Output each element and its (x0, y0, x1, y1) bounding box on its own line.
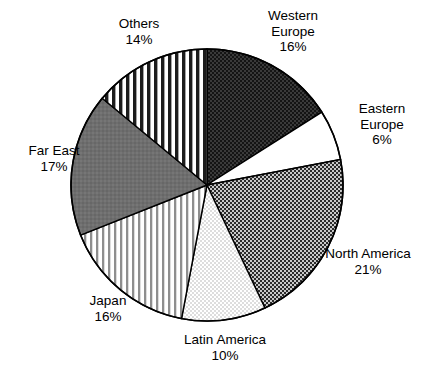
pie-label-japan-line1: Japan (90, 293, 127, 309)
pie-label-north-america: North America 21% (325, 246, 411, 277)
pie-value-japan: 16% (90, 309, 127, 325)
pie-label-latin-america-line1: Latin America (184, 332, 266, 348)
pie-value-western-europe: 16% (268, 39, 318, 55)
pie-label-western-europe-line1: Western (268, 8, 318, 24)
pie-label-eastern-europe: Eastern Europe 6% (359, 101, 406, 148)
pie-label-eastern-europe-line1: Eastern (359, 101, 406, 117)
pie-label-latin-america: Latin America 10% (184, 332, 266, 363)
pie-label-far-east-line1: Far East (28, 143, 79, 159)
pie-value-north-america: 21% (325, 262, 411, 278)
pie-value-latin-america: 10% (184, 348, 266, 364)
pie-label-western-europe-line2: Europe (268, 24, 318, 40)
pie-label-western-europe: Western Europe 16% (268, 8, 318, 55)
pie-value-far-east: 17% (28, 159, 79, 175)
pie-slice-group (71, 49, 343, 321)
pie-chart (0, 0, 431, 377)
pie-label-north-america-line1: North America (325, 246, 411, 262)
pie-label-others-line1: Others (119, 16, 160, 32)
pie-label-far-east: Far East 17% (28, 143, 79, 174)
pie-label-eastern-europe-line2: Europe (359, 117, 406, 133)
pie-label-others: Others 14% (119, 16, 160, 47)
pie-chart-page: Western Europe 16% Eastern Europe 6% Nor… (0, 0, 431, 377)
pie-value-others: 14% (119, 32, 160, 48)
pie-value-eastern-europe: 6% (359, 132, 406, 148)
pie-label-japan: Japan 16% (90, 293, 127, 324)
